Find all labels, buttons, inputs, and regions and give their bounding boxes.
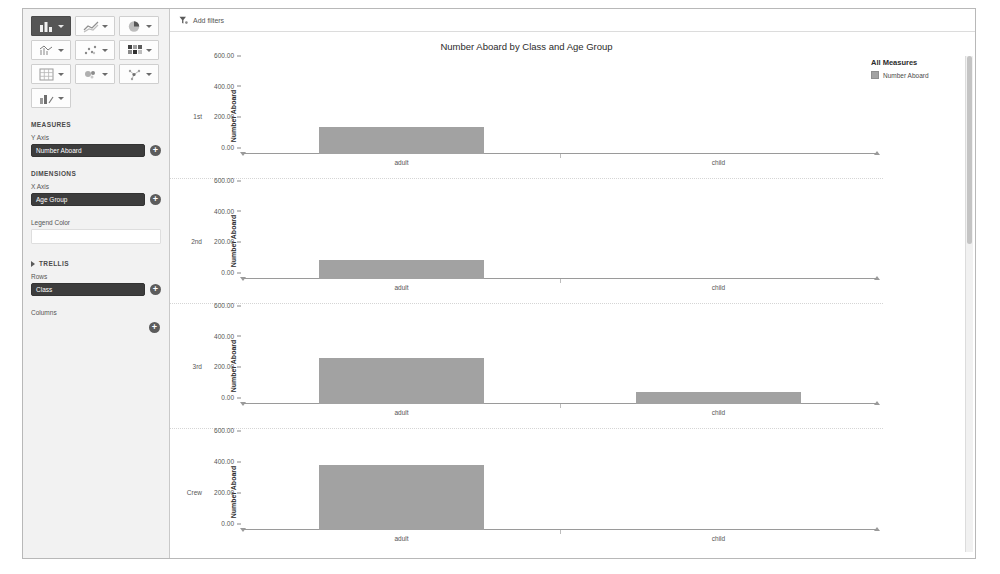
expand-triangle-icon[interactable]: [31, 261, 35, 267]
plot-area: 0.00200.00400.00600.00adultchild: [243, 312, 877, 404]
network-chart-icon: [127, 68, 144, 81]
add-trellis-column-button[interactable]: +: [149, 322, 160, 333]
viz-type-cross-table[interactable]: [31, 64, 71, 84]
viz-type-combination-chart[interactable]: [31, 40, 71, 60]
trellis-row-label: Crew: [176, 488, 202, 495]
chevron-down-icon[interactable]: [58, 49, 64, 52]
measures-section-header: MEASURES: [31, 121, 161, 128]
plot-area: 0.00200.00400.00600.00adultchild: [243, 437, 877, 530]
vertical-scrollbar[interactable]: [965, 56, 973, 552]
chevron-down-icon[interactable]: [102, 49, 108, 52]
y-axis-tick-label: 200.00: [214, 489, 243, 496]
legend-color-shelf[interactable]: [31, 229, 161, 244]
y-axis-tick-label: 400.00: [214, 207, 243, 214]
add-trellis-row-button[interactable]: +: [150, 284, 161, 295]
legend-item-label: Number Aboard: [883, 72, 929, 79]
y-axis-tick-label: 0.00: [221, 394, 243, 401]
trellis-columns-label: Columns: [31, 309, 161, 316]
x-axis-pill[interactable]: Age Group: [31, 193, 145, 206]
viz-type-heat-map[interactable]: [119, 40, 159, 60]
viz-type-scatter-plot[interactable]: [75, 40, 115, 60]
viz-type-kpi-chart[interactable]: [31, 88, 71, 108]
axis-origin-marker: [240, 277, 246, 281]
y-axis-label: Y Axis: [31, 134, 161, 141]
line-chart-icon: [83, 20, 100, 33]
chart-title: Number Aboard by Class and Age Group: [170, 41, 883, 52]
chevron-down-icon[interactable]: [146, 49, 152, 52]
add-y-axis-button[interactable]: +: [150, 145, 161, 156]
y-axis-tick-label: 600.00: [214, 177, 243, 184]
x-axis-category-divider: [560, 154, 561, 158]
axis-origin-marker: [240, 152, 246, 156]
bar[interactable]: [319, 358, 484, 404]
trellis-rows-pill[interactable]: Class: [31, 283, 145, 296]
x-axis-shelf[interactable]: Age Group +: [31, 193, 161, 206]
x-axis-category-divider: [560, 530, 561, 534]
y-axis-shelf[interactable]: Number Aboard +: [31, 144, 161, 157]
bar-chart-icon: [39, 20, 56, 33]
trellis-rows-shelf[interactable]: Class +: [31, 283, 161, 296]
bar[interactable]: [636, 392, 801, 404]
y-axis-tick-label: 400.00: [214, 82, 243, 89]
trellis-panel-container: 1stNumber Aboard0.00200.00400.00600.00ad…: [170, 54, 883, 554]
axis-origin-marker: [240, 402, 246, 406]
x-axis-tick-label: child: [712, 284, 725, 291]
trellis-panel: 2ndNumber Aboard0.00200.00400.00600.00ad…: [170, 179, 883, 304]
chevron-down-icon[interactable]: [146, 73, 152, 76]
scrollbar-thumb[interactable]: [967, 56, 972, 244]
viz-type-treemap[interactable]: [75, 64, 115, 84]
treemap-icon: [83, 68, 100, 81]
add-x-axis-button[interactable]: +: [150, 194, 161, 205]
trellis-panel: CrewNumber Aboard0.00200.00400.00600.00a…: [170, 429, 883, 554]
cross-table-icon: [39, 68, 56, 81]
add-filters-label[interactable]: Add filters: [193, 17, 224, 24]
chevron-down-icon[interactable]: [102, 73, 108, 76]
y-axis-tick-label: 200.00: [214, 113, 243, 120]
trellis-section-title: TRELLIS: [39, 260, 69, 267]
chevron-down-icon[interactable]: [58, 73, 64, 76]
x-axis-tick-label: adult: [394, 284, 408, 291]
trellis-row-label: 1st: [176, 113, 202, 120]
kpi-chart-icon: [39, 92, 56, 105]
y-axis-tick-label: 400.00: [214, 332, 243, 339]
dimensions-section-header: DIMENSIONS: [31, 170, 161, 177]
y-axis-pill[interactable]: Number Aboard: [31, 144, 145, 157]
main-content-area: Add filters Number Aboard by Class and A…: [170, 9, 975, 558]
x-axis-tick-label: child: [712, 409, 725, 416]
y-axis-tick-label: 0.00: [221, 144, 243, 151]
chevron-down-icon[interactable]: [58, 97, 64, 100]
trellis-panel: 3rdNumber Aboard0.00200.00400.00600.00ad…: [170, 304, 883, 429]
bar[interactable]: [319, 260, 484, 279]
bar[interactable]: [319, 465, 484, 530]
x-axis-label: X Axis: [31, 183, 161, 190]
x-axis-category-divider: [560, 279, 561, 283]
bar[interactable]: [319, 127, 484, 154]
heat-map-icon: [127, 44, 144, 57]
y-axis-tick-label: 0.00: [221, 269, 243, 276]
viz-type-bar-chart[interactable]: [31, 16, 71, 36]
y-axis-tick-label: 400.00: [214, 458, 243, 465]
visualization-type-toolbar: [31, 16, 161, 108]
filter-icon[interactable]: [179, 16, 188, 25]
scatter-plot-icon: [83, 44, 100, 57]
trellis-rows-label: Rows: [31, 273, 161, 280]
x-axis-tick-label: child: [712, 535, 725, 542]
chevron-down-icon[interactable]: [102, 25, 108, 28]
application-window: MEASURES Y Axis Number Aboard + DIMENSIO…: [22, 8, 976, 559]
x-axis-tick-label: child: [712, 159, 725, 166]
chevron-down-icon[interactable]: [146, 25, 152, 28]
viz-type-network-chart[interactable]: [119, 64, 159, 84]
x-axis-tick-label: adult: [394, 409, 408, 416]
legend-color-label: Legend Color: [31, 219, 161, 226]
x-axis-tick-label: adult: [394, 159, 408, 166]
viz-type-pie-chart[interactable]: [119, 16, 159, 36]
y-axis-tick-label: 600.00: [214, 427, 243, 434]
axis-end-marker: [874, 276, 880, 280]
trellis-columns-shelf[interactable]: +: [31, 322, 161, 333]
viz-type-line-chart[interactable]: [75, 16, 115, 36]
chevron-down-icon[interactable]: [58, 25, 64, 28]
filter-bar: Add filters: [170, 9, 975, 32]
axis-end-marker: [874, 151, 880, 155]
trellis-section-header[interactable]: TRELLIS: [31, 260, 161, 267]
trellis-row-label: 3rd: [176, 363, 202, 370]
